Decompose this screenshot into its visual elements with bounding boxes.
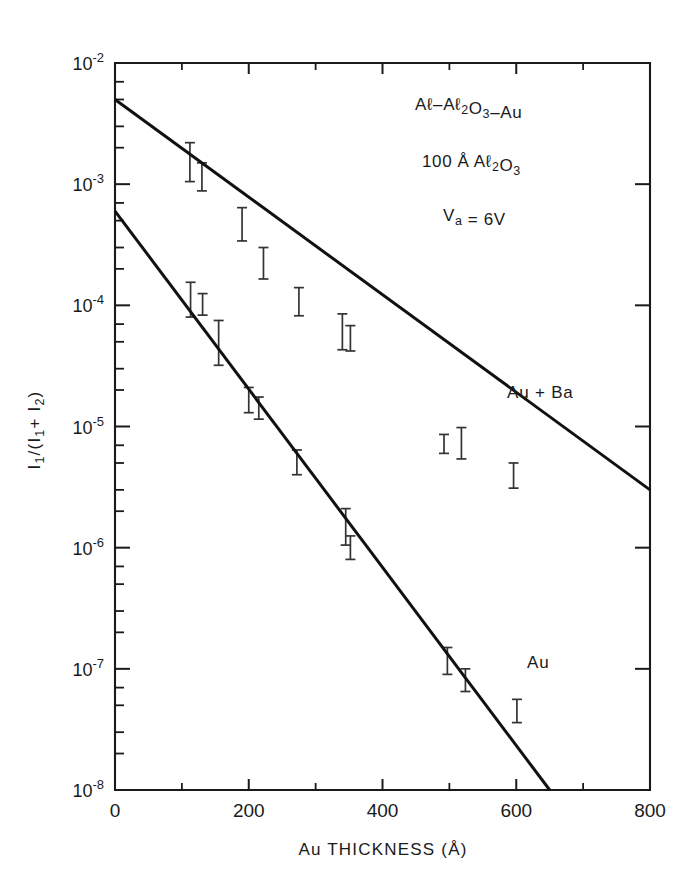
semilog-chart: 0200400600800 10-810-710-610-510-410-310… xyxy=(0,0,699,892)
y-axis-title: I1/(I1+ I2) xyxy=(25,391,47,470)
y-tick-label: 10-7 xyxy=(72,656,104,680)
fit-lines xyxy=(115,99,650,790)
y-title-a-sub: 1 xyxy=(33,429,47,437)
y-tick-label: 10-5 xyxy=(72,414,104,438)
x-axis-ticks xyxy=(115,63,650,790)
x-axis-title: Au THICKNESS (Å) xyxy=(298,840,467,859)
y-axis-tick-labels: 10-810-710-610-510-410-310-2 xyxy=(72,50,104,801)
axis-frame xyxy=(115,63,650,790)
plot-frame xyxy=(115,63,650,790)
x-tick-label: 400 xyxy=(367,800,399,821)
chart-annotations: Aℓ–Aℓ2O3–Au100 Å Aℓ2O3Va = 6VAu + BaAu xyxy=(415,95,574,672)
errorbars-series-au xyxy=(186,282,522,722)
y-title-b-sub: 2 xyxy=(33,397,47,405)
x-tick-label: 600 xyxy=(500,800,532,821)
x-axis-tick-labels: 0200400600800 xyxy=(110,800,666,821)
y-axis-ticks xyxy=(115,63,650,790)
y-tick-label: 10-6 xyxy=(72,535,104,559)
y-title-plus: + I xyxy=(25,406,44,429)
y-tick-label: 10-2 xyxy=(72,50,104,74)
figure-container: 0200400600800 10-810-710-610-510-410-310… xyxy=(0,0,699,892)
x-tick-label: 200 xyxy=(233,800,265,821)
x-tick-label: 0 xyxy=(110,800,121,821)
y-title-close: ) xyxy=(25,391,44,398)
annotation-series-au-ba: Au + Ba xyxy=(507,383,574,402)
annotation-stack: Aℓ–Aℓ2O3–Au xyxy=(415,95,522,122)
y-tick-label: 10-4 xyxy=(72,292,104,316)
fit-line-au xyxy=(115,211,550,790)
y-tick-label: 10-8 xyxy=(72,777,104,801)
annotation-applied-voltage: Va = 6V xyxy=(443,206,506,229)
x-tick-label: 800 xyxy=(634,800,666,821)
y-tick-label: 10-3 xyxy=(72,171,104,195)
annotation-series-au: Au xyxy=(527,653,549,672)
y-title-open: (I xyxy=(25,437,44,450)
svg-text:I1/(I1+ I2): I1/(I1+ I2) xyxy=(25,391,47,470)
annotation-oxide-thickness: 100 Å Aℓ2O3 xyxy=(422,152,521,178)
fit-line-au-ba xyxy=(115,99,650,489)
y-title-I-sub: 1 xyxy=(33,455,47,463)
errorbars-series-au-ba xyxy=(185,143,519,488)
